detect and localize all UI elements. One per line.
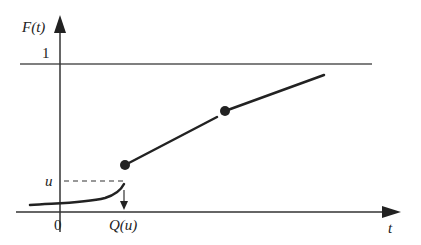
x-axis-label: t xyxy=(388,220,393,236)
y-axis-label: F(t) xyxy=(21,19,45,36)
x-tick-quantile: Q(u) xyxy=(109,217,137,234)
second-jump-point-dot xyxy=(220,106,230,116)
y-axis-arrow-icon xyxy=(54,15,66,33)
y-tick-u: u xyxy=(45,173,53,189)
x-tick-zero: 0 xyxy=(54,217,62,233)
y-tick-one: 1 xyxy=(42,45,50,61)
quantile-arrow-icon xyxy=(120,201,128,210)
cdf-segment-middle xyxy=(125,117,217,165)
x-axis-arrow-icon xyxy=(382,206,401,218)
jump-point-dot xyxy=(120,160,130,170)
cdf-segment-upper xyxy=(225,75,324,111)
cdf-quantile-diagram: F(t) 1 u 0 Q(u) t xyxy=(0,0,421,245)
